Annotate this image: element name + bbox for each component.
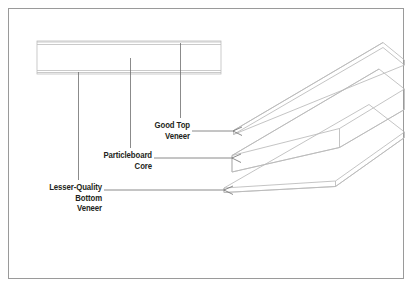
figure-canvas: Good Top Veneer Particleboard Core Lesse… — [0, 0, 413, 288]
label-particleboard-core: Particleboard Core — [53, 150, 152, 171]
core-back-left-edge — [232, 69, 379, 156]
top-veneer-solid — [234, 43, 405, 135]
label-good-top-veneer: Good Top Veneer — [93, 120, 190, 141]
bottom-veneer-top-face-front-edges — [224, 132, 405, 188]
edge-cross-section — [37, 41, 221, 74]
cross-section-outline — [37, 41, 221, 74]
bottom-veneer-solid — [224, 105, 405, 193]
top-veneer-panel — [234, 43, 405, 135]
label-lesser-quality-bottom-veneer: Lesser-Quality Bottom Veneer — [13, 182, 102, 214]
bottom-veneer-bottom-front-edges — [224, 138, 405, 193]
bottom-veneer-panel — [224, 105, 405, 193]
top-veneer-back-left-edge — [234, 43, 384, 131]
panel-diagram-artwork — [0, 0, 413, 288]
core-top-face-front-edges — [232, 89, 405, 156]
leader-lines — [79, 43, 243, 195]
